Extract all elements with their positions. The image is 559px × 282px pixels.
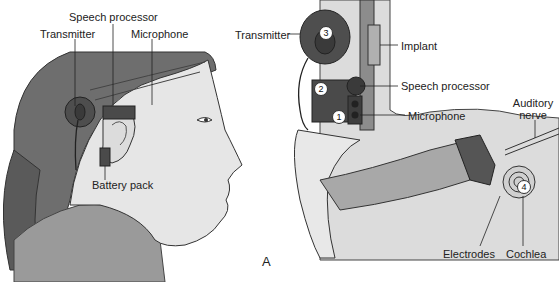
label-electrodes: Electrodes	[443, 248, 495, 260]
head-profile-panel: Speech processor Transmitter Microphone …	[0, 0, 280, 282]
head-profile-illustration	[0, 0, 280, 282]
label-cochlea: Cochlea	[506, 248, 546, 260]
label-microphone-right: Microphone	[408, 110, 465, 122]
label-implant: Implant	[401, 40, 437, 52]
label-auditory-nerve-line2: nerve	[508, 109, 558, 121]
label-auditory-nerve-line1: Auditory	[508, 97, 558, 109]
label-speech-processor-right: Speech processor	[401, 80, 490, 92]
panel-letter: A	[262, 254, 271, 269]
label-auditory-nerve: Auditory nerve	[508, 97, 558, 121]
label-transmitter: Transmitter	[40, 28, 95, 40]
marker-4: 4	[517, 180, 531, 194]
label-battery-pack: Battery pack	[92, 179, 153, 191]
ear-cross-section-panel: Transmitter Implant Speech processor Mic…	[280, 0, 559, 282]
label-speech-processor: Speech processor	[69, 11, 158, 23]
marker-3: 3	[319, 26, 333, 40]
marker-2: 2	[314, 82, 328, 96]
label-microphone: Microphone	[131, 28, 188, 40]
label-transmitter-right: Transmitter	[235, 29, 290, 41]
marker-1: 1	[332, 110, 346, 124]
